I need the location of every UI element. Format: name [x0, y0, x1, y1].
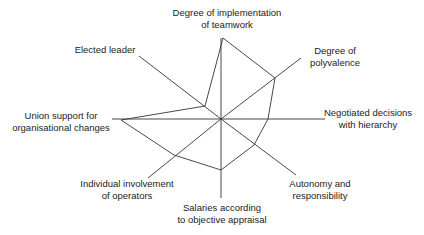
label-individual-line2: of operators [72, 190, 182, 202]
label-polyvalence: Degree of polyvalence [300, 45, 370, 68]
label-negotiated: Negotiated decisions with hierarchy [318, 107, 418, 130]
label-salaries-line2: to objective appraisal [170, 214, 274, 226]
label-salaries: Salaries according to objective appraisa… [170, 202, 274, 225]
label-union-line1: Union support for [2, 110, 120, 122]
label-autonomy-line1: Autonomy and [280, 178, 360, 190]
label-union-line2: organisational changes [2, 122, 120, 134]
axis-individual [148, 119, 221, 178]
label-autonomy-line2: responsibility [280, 190, 360, 202]
label-teamwork-line1: Degree of implementation [168, 7, 286, 19]
label-polyvalence-line1: Degree of [300, 45, 370, 57]
label-individual: Individual involvement of operators [72, 178, 182, 201]
profile-polygon [121, 38, 275, 170]
label-salaries-line1: Salaries according [170, 202, 274, 214]
label-union: Union support for organisational changes [2, 110, 120, 133]
label-negotiated-line2: with hierarchy [318, 119, 418, 131]
axis-autonomy [221, 119, 296, 175]
label-elected-line1: Elected leader [72, 44, 138, 56]
label-individual-line1: Individual involvement [72, 178, 182, 190]
label-negotiated-line1: Negotiated decisions [318, 107, 418, 119]
axis-elected [139, 56, 221, 119]
label-teamwork-line2: of teamwork [168, 19, 286, 31]
label-polyvalence-line2: polyvalence [300, 57, 370, 69]
label-autonomy: Autonomy and responsibility [280, 178, 360, 201]
label-teamwork: Degree of implementation of teamwork [168, 7, 286, 30]
label-elected: Elected leader [72, 44, 138, 56]
